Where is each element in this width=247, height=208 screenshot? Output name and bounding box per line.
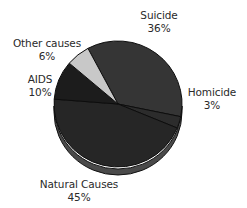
label-natural-name: Natural Causes bbox=[36, 178, 122, 191]
label-suicide-name: Suicide bbox=[134, 9, 184, 22]
label-natural-pct: 45% bbox=[36, 191, 122, 204]
label-aids-pct: 10% bbox=[22, 86, 58, 99]
label-other-causes: Other causes 6% bbox=[10, 37, 84, 63]
label-homicide: Homicide 3% bbox=[184, 86, 240, 112]
label-suicide-pct: 36% bbox=[134, 22, 184, 35]
label-suicide: Suicide 36% bbox=[134, 9, 184, 35]
label-other-name: Other causes bbox=[10, 37, 84, 50]
label-natural-causes: Natural Causes 45% bbox=[36, 178, 122, 204]
label-homicide-name: Homicide bbox=[184, 86, 240, 99]
label-other-pct: 6% bbox=[10, 50, 84, 63]
label-aids-name: AIDS bbox=[22, 73, 58, 86]
label-homicide-pct: 3% bbox=[184, 99, 240, 112]
label-aids: AIDS 10% bbox=[22, 73, 58, 99]
